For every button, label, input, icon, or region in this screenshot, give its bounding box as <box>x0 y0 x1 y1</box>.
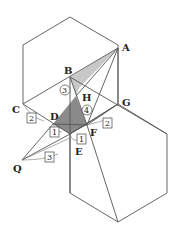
label-H: H <box>82 92 91 103</box>
line-C-B-A <box>23 48 118 104</box>
label-D: D <box>50 111 59 122</box>
ratio-circle-3: 3 <box>60 85 70 95</box>
ratio-box-1-EF: 1 <box>77 134 86 144</box>
ratio-box-1-DE: 1 <box>50 127 59 137</box>
ratio-box-2-CD: 2 <box>27 113 36 123</box>
svg-text:3: 3 <box>62 86 67 95</box>
svg-text:4: 4 <box>84 106 89 115</box>
ratio-box-3-QE: 3 <box>45 152 54 162</box>
label-A: A <box>121 42 130 53</box>
svg-text:2: 2 <box>105 119 110 128</box>
ratio-circle-4: 4 <box>82 105 92 115</box>
label-E: E <box>75 146 83 157</box>
label-Q: Q <box>13 163 22 174</box>
label-B: B <box>64 65 72 76</box>
svg-text:1: 1 <box>52 128 57 137</box>
label-G: G <box>122 97 131 108</box>
label-F: F <box>90 127 97 138</box>
svg-text:3: 3 <box>47 153 52 162</box>
ratio-box-2-FG: 2 <box>103 118 112 128</box>
svg-text:1: 1 <box>79 135 84 144</box>
svg-text:2: 2 <box>29 114 34 123</box>
label-C: C <box>12 104 20 115</box>
geometry-diagram: 2 1 3 1 2 3 4 A B C D E F G H Q <box>0 0 181 235</box>
line-F-bottom <box>87 125 118 222</box>
